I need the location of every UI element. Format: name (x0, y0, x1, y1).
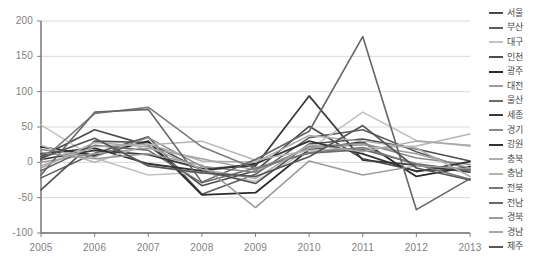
legend-swatch-icon (489, 187, 503, 189)
legend-swatch-icon (489, 144, 503, 146)
legend-item-경기[interactable]: 경기 (489, 123, 546, 138)
x-tick-label: 2013 (450, 242, 490, 253)
legend-item-경북[interactable]: 경북 (489, 210, 546, 225)
legend-swatch-icon (489, 158, 503, 160)
x-tick-label: 2012 (396, 242, 436, 253)
legend-item-울산[interactable]: 울산 (489, 94, 546, 109)
legend-label: 부산 (507, 23, 523, 32)
legend-label: 대전 (507, 82, 523, 91)
chart-legend: 서울부산대구인천광주대전울산세종경기강원충북충남전북전남경북경남제주 (489, 6, 546, 254)
y-tick-label: 200 (3, 15, 33, 26)
legend-label: 전남 (507, 199, 523, 208)
x-tick-label: 2008 (182, 242, 222, 253)
legend-swatch-icon (489, 27, 503, 29)
legend-swatch-icon (489, 56, 503, 58)
legend-item-서울[interactable]: 서울 (489, 6, 546, 21)
x-tick-label: 2006 (75, 242, 115, 253)
legend-swatch-icon (489, 246, 503, 248)
legend-item-충북[interactable]: 충북 (489, 152, 546, 167)
legend-swatch-icon (489, 231, 503, 233)
line-chart: 200150100500-50-100 20052006200720082009… (0, 0, 546, 270)
legend-item-세종[interactable]: 세종 (489, 108, 546, 123)
x-tick-label: 2007 (128, 242, 168, 253)
legend-item-전남[interactable]: 전남 (489, 196, 546, 211)
legend-swatch-icon (489, 202, 503, 204)
legend-label: 경남 (507, 228, 523, 237)
legend-item-인천[interactable]: 인천 (489, 50, 546, 65)
y-tick-label: 50 (3, 121, 33, 132)
legend-item-충남[interactable]: 충남 (489, 167, 546, 182)
legend-item-경남[interactable]: 경남 (489, 225, 546, 240)
series-lines (41, 37, 470, 210)
legend-label: 경기 (507, 126, 523, 135)
legend-item-전북[interactable]: 전북 (489, 181, 546, 196)
legend-item-제주[interactable]: 제주 (489, 240, 546, 255)
legend-swatch-icon (489, 100, 503, 102)
legend-swatch-icon (489, 114, 503, 116)
legend-swatch-icon (489, 41, 503, 43)
y-tick-label: 0 (3, 156, 33, 167)
plot-area (0, 0, 546, 270)
x-tick-label: 2005 (21, 242, 61, 253)
legend-label: 강원 (507, 140, 523, 149)
y-tick-label: -50 (3, 192, 33, 203)
y-tick-label: -100 (3, 227, 33, 238)
legend-swatch-icon (489, 71, 503, 73)
legend-label: 울산 (507, 96, 523, 105)
gridlines (41, 21, 470, 233)
legend-item-대구[interactable]: 대구 (489, 35, 546, 50)
legend-label: 전북 (507, 184, 523, 193)
legend-swatch-icon (489, 129, 503, 131)
legend-label: 세종 (507, 111, 523, 120)
x-tick-label: 2009 (236, 242, 276, 253)
x-tick-label: 2010 (289, 242, 329, 253)
x-tick-label: 2011 (343, 242, 383, 253)
legend-label: 경북 (507, 213, 523, 222)
legend-label: 제주 (507, 242, 523, 251)
legend-swatch-icon (489, 85, 503, 87)
y-tick-label: 150 (3, 50, 33, 61)
legend-item-광주[interactable]: 광주 (489, 64, 546, 79)
legend-item-부산[interactable]: 부산 (489, 21, 546, 36)
legend-label: 인천 (507, 53, 523, 62)
legend-swatch-icon (489, 173, 503, 175)
legend-item-대전[interactable]: 대전 (489, 79, 546, 94)
legend-label: 대구 (507, 38, 523, 47)
legend-swatch-icon (489, 217, 503, 219)
legend-label: 충남 (507, 169, 523, 178)
legend-item-강원[interactable]: 강원 (489, 137, 546, 152)
legend-label: 서울 (507, 9, 523, 18)
y-tick-label: 100 (3, 86, 33, 97)
legend-swatch-icon (489, 12, 503, 14)
legend-label: 광주 (507, 67, 523, 76)
legend-label: 충북 (507, 155, 523, 164)
